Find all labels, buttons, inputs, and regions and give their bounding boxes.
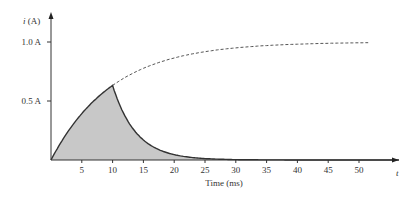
x-tick-label: 25 (201, 165, 211, 175)
x-tick-label: 50 (355, 165, 365, 175)
y-ticks: 0.5 A1.0 A (21, 37, 51, 106)
x-axis-arrow-icon (392, 158, 399, 163)
x-tick-label: 5 (80, 165, 85, 175)
x-tick-label: 35 (262, 165, 272, 175)
y-tick-label: 1.0 A (21, 37, 41, 47)
x-tick-label: 15 (139, 165, 149, 175)
x-tick-label: 20 (170, 165, 180, 175)
y-axis-title: i (A) (23, 16, 40, 26)
x-ticks: 5101520253035404550 (80, 160, 364, 175)
x-axis-end-label: t (396, 168, 399, 178)
x-tick-label: 30 (231, 165, 241, 175)
x-axis-title: Time (ms) (205, 178, 242, 188)
chart: 5101520253035404550 0.5 A1.0 A i (A) Tim… (0, 0, 418, 198)
x-tick-label: 10 (108, 165, 118, 175)
x-tick-label: 45 (324, 165, 334, 175)
shaded-area (51, 85, 399, 160)
x-tick-label: 40 (293, 165, 303, 175)
dashed-curve (113, 43, 369, 86)
y-tick-label: 0.5 A (21, 96, 41, 106)
y-axis-arrow-icon (49, 12, 54, 19)
